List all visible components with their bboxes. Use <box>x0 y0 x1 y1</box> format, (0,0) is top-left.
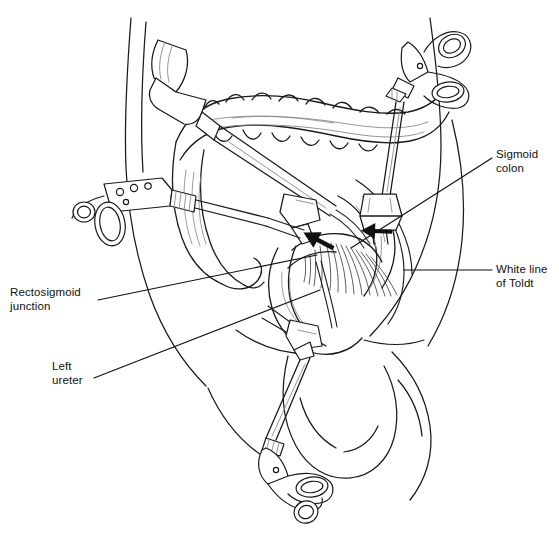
left-ureter <box>316 261 337 328</box>
grasper-left <box>72 178 304 248</box>
camera-trocar-upper-left <box>149 40 336 216</box>
leader-rectosigmoid-junction <box>98 255 317 300</box>
illustration-canvas: Sigmoid colon White line of Toldt Rectos… <box>0 0 559 541</box>
label-white-line-of-toldt: White line of Toldt <box>496 263 548 290</box>
label-left-ureter: Left ureter <box>52 360 83 387</box>
thigh-left <box>392 352 431 500</box>
label-sigmoid-colon: Sigmoid colon <box>496 148 538 175</box>
pelvic-contour <box>208 330 424 462</box>
scissors-lower <box>259 306 333 526</box>
surgical-illustration <box>0 0 559 541</box>
label-rectosigmoid-junction: Rectosigmoid junction <box>10 286 81 313</box>
